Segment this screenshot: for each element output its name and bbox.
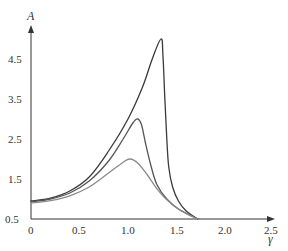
y-tick-label: 2.5 <box>8 133 22 145</box>
y-tick-label: 1.5 <box>8 173 22 185</box>
curves-group <box>31 39 198 219</box>
x-tick-label: 1.0 <box>121 224 135 236</box>
x-tick-label: 0.5 <box>72 224 86 236</box>
x-tick-label: 1.5 <box>170 224 184 236</box>
chart-canvas: A γ 0.5 1.5 2.5 3.5 4.5 0 0.5 1.0 1.5 2.… <box>0 0 288 251</box>
y-tick-label: 4.5 <box>8 53 22 65</box>
y-tick-label: 0.5 <box>5 213 19 225</box>
y-axis-label: A <box>26 9 35 23</box>
x-tick-label: 2.5 <box>264 224 278 236</box>
x-tick-label: 2.0 <box>218 224 232 236</box>
curve-high <box>31 39 198 219</box>
x-axis-arrow-icon <box>267 216 275 222</box>
y-tick-label: 3.5 <box>8 93 22 105</box>
y-axis-arrow-icon <box>28 25 34 33</box>
x-tick-label: 0 <box>28 224 34 236</box>
